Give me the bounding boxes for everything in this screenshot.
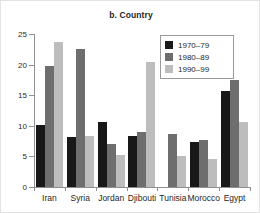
- x-axis-label: Syria: [71, 193, 90, 203]
- x-tick-mark: [188, 187, 189, 191]
- bar: [221, 91, 230, 187]
- bar: [168, 134, 177, 187]
- x-tick-mark: [96, 187, 97, 191]
- y-tick-label: 5: [1, 152, 27, 161]
- bar: [54, 42, 63, 187]
- bar: [239, 122, 248, 187]
- bar: [67, 137, 76, 187]
- bar: [199, 140, 208, 187]
- bar: [208, 159, 217, 187]
- x-tick-mark: [250, 187, 251, 191]
- y-tick-label: 0: [1, 183, 27, 192]
- y-tick-label: 10: [1, 121, 27, 130]
- bar-group: [96, 34, 127, 187]
- x-tick-mark: [219, 187, 220, 191]
- bar: [137, 132, 146, 187]
- bar-group-bars: [127, 34, 158, 187]
- bar: [107, 144, 116, 187]
- x-axis-label: Jordan: [98, 193, 124, 203]
- legend: 1970–791980–891990–99: [160, 35, 234, 79]
- x-axis-label: Djibouti: [128, 193, 156, 203]
- legend-label: 1990–99: [178, 65, 209, 74]
- legend-swatch-icon: [165, 53, 173, 61]
- bar: [128, 136, 137, 187]
- bar-group: [127, 34, 158, 187]
- bar-group: [65, 34, 96, 187]
- x-tick-mark: [127, 187, 128, 191]
- legend-label: 1980–89: [178, 53, 209, 62]
- bar: [85, 136, 94, 187]
- legend-item: 1990–99: [165, 63, 229, 75]
- x-axis-label: Iran: [42, 193, 57, 203]
- chart-title: b. Country: [1, 10, 260, 20]
- y-tick-label: 25: [1, 30, 27, 39]
- x-tick-mark: [65, 187, 66, 191]
- bar: [116, 155, 125, 187]
- bar-group-bars: [65, 34, 96, 187]
- y-tick-label: 20: [1, 60, 27, 69]
- bar-group-bars: [96, 34, 127, 187]
- bar: [36, 125, 45, 187]
- legend-label: 1970–79: [178, 41, 209, 50]
- x-axis-label: Tunisia: [159, 193, 186, 203]
- bar: [230, 80, 239, 187]
- x-tick-mark: [34, 187, 35, 191]
- legend-item: 1970–79: [165, 39, 229, 51]
- legend-item: 1980–89: [165, 51, 229, 63]
- x-axis-label: Morocco: [187, 193, 220, 203]
- bar: [146, 62, 155, 187]
- legend-swatch-icon: [165, 65, 173, 73]
- y-tick-label: 15: [1, 91, 27, 100]
- legend-swatch-icon: [165, 41, 173, 49]
- bar-group-bars: [34, 34, 65, 187]
- bar: [76, 49, 85, 187]
- x-tick-mark: [157, 187, 158, 191]
- bar-group: [34, 34, 65, 187]
- bar: [98, 122, 107, 187]
- bar: [190, 142, 199, 187]
- x-axis-label: Egypt: [224, 193, 246, 203]
- bar-chart-figure: b. Country 0510152025 IranSyriaJordanDji…: [0, 0, 260, 213]
- bar: [177, 156, 186, 187]
- bar: [45, 66, 54, 187]
